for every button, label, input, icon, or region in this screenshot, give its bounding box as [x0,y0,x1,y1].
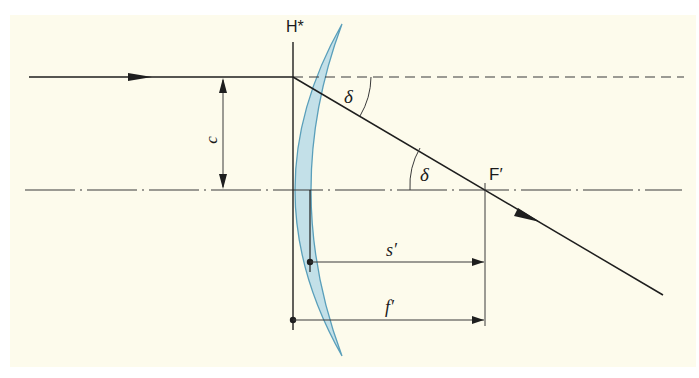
angle-label-bottom: δ [420,164,430,185]
height-label: c [202,136,221,144]
f-prime-label: f′ [385,297,395,317]
focal-point-label: F′ [489,165,503,184]
background-panel [10,15,696,367]
principal-plane-label: H* [286,18,304,35]
optics-diagram: H* c δ δ F′ s′ f′ [0,0,699,378]
s-prime-label: s′ [386,240,398,260]
angle-label-top: δ [344,86,354,107]
